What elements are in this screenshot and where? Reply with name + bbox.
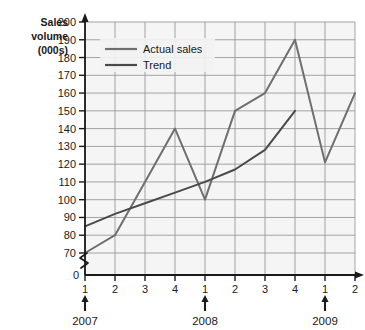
- x-tick-label-9: 2: [352, 283, 358, 295]
- y-tick-label-130: 130: [58, 140, 76, 152]
- x-tick-label-8: 1: [322, 283, 328, 295]
- legend-label-trend: Trend: [143, 59, 171, 71]
- chart-canvas: 708090100110120130140150160170180190200 …: [0, 0, 365, 330]
- y-axis-title-line-3: (000s): [38, 44, 68, 56]
- y-tick-label-140: 140: [58, 123, 76, 135]
- x-tick-label-6: 3: [262, 283, 268, 295]
- y-tick-label-80: 80: [64, 229, 76, 241]
- x-tick-label-3: 4: [172, 283, 178, 295]
- y-axis-zero-label: 0: [73, 269, 79, 281]
- x-tick-label-1: 2: [112, 283, 118, 295]
- y-tick-label-150: 150: [58, 105, 76, 117]
- x-tick-label-7: 4: [292, 283, 298, 295]
- y-axis-title-line-2: volume: [31, 30, 68, 42]
- y-tick-label-120: 120: [58, 158, 76, 170]
- y-tick-label-160: 160: [58, 87, 76, 99]
- y-tick-label-170: 170: [58, 69, 76, 81]
- year-label-2009: 2009: [312, 315, 338, 327]
- year-label-2007: 2007: [72, 315, 98, 327]
- x-tick-label-0: 1: [82, 283, 88, 295]
- sales-volume-line-chart: 708090100110120130140150160170180190200 …: [0, 0, 365, 330]
- y-tick-label-100: 100: [58, 194, 76, 206]
- x-tick-label-2: 3: [142, 283, 148, 295]
- x-tick-label-4: 1: [202, 283, 208, 295]
- y-tick-label-70: 70: [64, 247, 76, 259]
- y-tick-label-110: 110: [58, 176, 76, 188]
- legend-label-actual-sales: Actual sales: [143, 43, 203, 55]
- y-tick-label-90: 90: [64, 211, 76, 223]
- y-axis-title-line-1: Sales: [41, 16, 69, 28]
- chart-legend: Actual sales Trend: [100, 38, 215, 72]
- year-label-2008: 2008: [192, 315, 218, 327]
- x-tick-label-5: 2: [232, 283, 238, 295]
